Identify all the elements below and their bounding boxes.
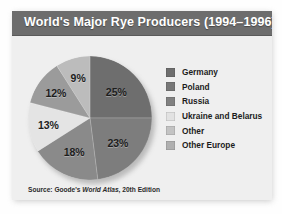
card-body: 25%23%18%13%12%9% GermanyPolandRussiaUkr… [12,36,272,200]
legend-swatch-icon [166,112,175,121]
legend-label: Ukraine and Belarus [182,112,262,120]
source-title: World Atlas [82,186,118,193]
legend-item: Other Europe [166,138,270,153]
pie-slice-label: 9% [71,72,86,84]
infographic-card: World's Major Rye Producers (1994–1996) … [12,11,272,200]
pie-slice-label: 13% [38,119,59,131]
legend-swatch-icon [166,68,175,77]
chart-card-page: World's Major Rye Producers (1994–1996) … [0,0,282,214]
legend-label: Other [182,127,204,135]
pie-chart: 25%23%18%13%12%9% [28,56,154,182]
legend-swatch-icon [166,97,175,106]
pie-slice-label: 23% [107,137,128,149]
legend-label: Russia [182,97,209,105]
legend-item: Germany [166,65,270,80]
source-prefix: Source: Goode's [28,186,82,193]
pie-slice [90,118,152,180]
legend-label: Poland [182,83,210,91]
source-suffix: , 20th Edition [119,186,160,193]
legend-label: Germany [182,68,218,76]
legend-label: Other Europe [182,141,235,149]
legend: GermanyPolandRussiaUkraine and BelarusOt… [166,65,270,153]
pie-slice-label: 12% [45,87,66,99]
pie-slice-label: 18% [64,146,85,158]
pie-slice-label: 25% [106,86,127,98]
source-citation: Source: Goode's World Atlas, 20th Editio… [28,186,160,193]
legend-item: Poland [166,80,270,95]
title-band: World's Major Rye Producers (1994–1996) [12,11,272,36]
legend-item: Russia [166,94,270,109]
legend-item: Ukraine and Belarus [166,109,270,124]
legend-swatch-icon [166,82,175,91]
page-title: World's Major Rye Producers (1994–1996) [24,15,272,29]
legend-item: Other [166,123,270,138]
legend-swatch-icon [166,141,175,150]
legend-swatch-icon [166,126,175,135]
